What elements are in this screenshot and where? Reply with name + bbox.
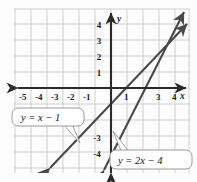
x-tick-3: 3 <box>156 92 161 102</box>
x-tick-1: 1 <box>124 92 129 102</box>
y-tick--3: -3 <box>93 133 101 143</box>
x-tick--5: -5 <box>19 92 27 102</box>
x-tick--2: -2 <box>67 92 75 102</box>
x-axis-label: x <box>179 91 185 101</box>
x-tick--1: -1 <box>83 92 91 102</box>
y-axis-label: y <box>116 14 122 24</box>
y-tick-3: 3 <box>97 36 102 46</box>
y-tick-1: 1 <box>97 68 102 78</box>
y-tick-4: 4 <box>97 20 102 30</box>
x-tick-4: 4 <box>172 92 177 102</box>
x-tick--3: -3 <box>51 92 59 102</box>
x-tick--4: -4 <box>35 92 43 102</box>
callout-line2-text: y = 2x − 4 <box>117 155 163 166</box>
callout-line1-text: y = x − 1 <box>20 112 60 123</box>
y-tick-2: 2 <box>97 52 102 62</box>
graph-figure: y x -5 -4 -3 -2 -1 1 3 4 4 3 2 1 -3 -4 y… <box>0 0 197 182</box>
grid-background <box>14 9 190 173</box>
coordinate-plane-svg: y x -5 -4 -3 -2 -1 1 3 4 4 3 2 1 -3 -4 y… <box>0 0 197 182</box>
y-tick--4: -4 <box>93 149 101 159</box>
